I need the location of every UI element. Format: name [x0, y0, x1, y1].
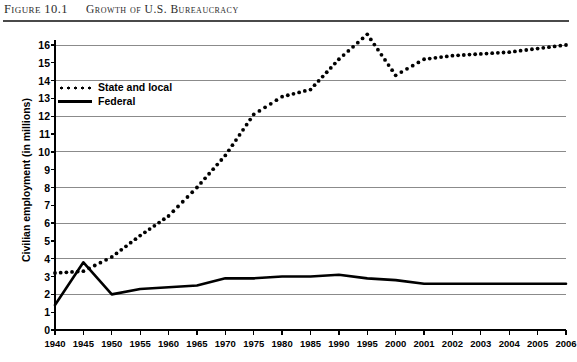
data-point [502, 51, 506, 55]
figure-header: Figure 10.1 Growth of U.S. Bureaucracy [0, 0, 575, 22]
x-tick-label: 1970 [215, 338, 236, 349]
x-tick-label: 2000 [385, 338, 406, 349]
data-point [269, 102, 273, 106]
data-point [387, 63, 391, 67]
data-point [337, 57, 341, 61]
data-point [231, 143, 235, 147]
data-point [519, 49, 523, 53]
data-point [399, 70, 403, 74]
data-point [124, 244, 128, 248]
data-point [152, 224, 156, 228]
data-point [238, 133, 242, 137]
legend-item-federal: Federal [58, 95, 98, 109]
data-point [252, 113, 256, 117]
data-point [309, 88, 313, 92]
data-point [215, 163, 219, 167]
data-point [292, 92, 296, 96]
solid-line-swatch-icon [58, 100, 92, 103]
header-divider [3, 20, 569, 22]
data-point [376, 48, 380, 52]
data-point [490, 51, 494, 55]
data-point [223, 154, 227, 158]
data-point [219, 158, 223, 162]
data-point [473, 52, 477, 56]
chart-legend: State and local Federal [58, 81, 98, 109]
data-point [541, 46, 545, 50]
data-point [524, 48, 528, 52]
chart-area: Civilian employment (in millions) 012345… [0, 24, 575, 362]
legend-label-federal: Federal [98, 95, 135, 107]
data-point [248, 118, 252, 122]
x-tick-label: 2002 [442, 338, 463, 349]
data-point [558, 44, 562, 48]
data-point [245, 123, 249, 127]
x-tick-label: 1990 [328, 338, 349, 349]
data-point [143, 230, 147, 234]
data-point [53, 271, 57, 275]
data-point [380, 53, 384, 57]
data-point [195, 186, 199, 190]
plot-svg [0, 24, 575, 362]
data-point [186, 195, 190, 199]
data-point [329, 66, 333, 70]
figure-title: Growth of U.S. Bureaucracy [86, 3, 239, 15]
data-point [70, 270, 74, 274]
x-tick-label: 2005 [527, 338, 548, 349]
data-point [129, 241, 133, 245]
data-point [456, 53, 460, 57]
data-point [507, 50, 511, 54]
data-point [321, 75, 325, 79]
x-tick-label: 1955 [130, 338, 151, 349]
data-point [422, 57, 426, 61]
data-point [313, 83, 317, 87]
data-point [564, 43, 568, 47]
x-tick-label: 1965 [186, 338, 207, 349]
data-point [181, 200, 185, 204]
series-state-and-local [53, 32, 568, 274]
data-point [167, 214, 171, 218]
data-point [81, 269, 85, 273]
x-tick-label: 1940 [44, 338, 65, 349]
data-point [115, 252, 119, 256]
series-line [55, 262, 566, 305]
x-tick-label: 2003 [470, 338, 491, 349]
data-point [119, 248, 123, 252]
data-point [227, 148, 231, 152]
data-point [451, 54, 455, 58]
data-point [356, 41, 360, 45]
data-point [536, 47, 540, 51]
data-point [390, 68, 394, 72]
data-point [148, 227, 152, 231]
x-tick-label: 1975 [243, 338, 264, 349]
data-point [207, 172, 211, 176]
dotted-line-swatch-icon [58, 86, 92, 90]
data-point [372, 43, 376, 47]
data-point [171, 209, 175, 213]
data-point [365, 32, 369, 36]
data-point [176, 205, 180, 209]
data-point [199, 181, 203, 185]
x-tick-label: 1945 [73, 338, 94, 349]
data-point [439, 55, 443, 59]
data-point [547, 45, 551, 49]
data-point [134, 237, 138, 241]
x-tick-label: 2001 [413, 338, 434, 349]
data-point [241, 128, 245, 132]
data-point [383, 58, 387, 62]
data-point [394, 73, 398, 77]
data-point [361, 37, 365, 41]
data-point [445, 55, 449, 59]
data-point [428, 57, 432, 61]
data-point [416, 61, 420, 65]
data-point [351, 45, 355, 49]
x-tick-label: 1995 [357, 338, 378, 349]
x-tick-label: 1980 [272, 338, 293, 349]
x-tick-label: 2006 [555, 338, 576, 349]
data-point [110, 255, 114, 259]
x-tick-label: 1985 [300, 338, 321, 349]
data-point [479, 52, 483, 56]
data-point [263, 105, 267, 109]
data-point [369, 38, 373, 42]
data-point [553, 45, 557, 49]
data-point [99, 261, 103, 265]
